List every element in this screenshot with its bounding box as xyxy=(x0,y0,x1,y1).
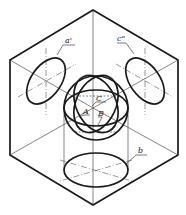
cube-inner-edges xyxy=(10,10,178,205)
label-c-double-prime-text: c" xyxy=(117,34,125,43)
right-face-ellipse xyxy=(116,48,173,115)
label-C-text: C xyxy=(96,94,102,103)
drawing-svg: a' c" C A B b xyxy=(0,0,186,215)
label-b-text: b xyxy=(138,146,143,155)
sphere xyxy=(64,68,128,140)
label-B-text: B xyxy=(97,109,104,118)
label-a-prime-text: a' xyxy=(65,36,72,45)
label-A-text: A xyxy=(82,107,89,116)
label-B: B xyxy=(97,109,104,125)
label-A: A xyxy=(79,107,90,117)
label-a-prime: a' xyxy=(57,36,75,55)
label-c-double-prime: c" xyxy=(117,34,134,54)
isometric-drawing: a' c" C A B b xyxy=(0,0,186,215)
